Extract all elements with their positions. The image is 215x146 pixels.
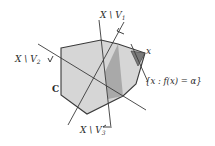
label-x-minus-v3: X \ V3 xyxy=(79,125,106,136)
label-x-minus-v2: X \ V2 xyxy=(14,54,41,65)
convex-set-diagram: X \ V1 X \ V2 X \ V3 C x {x : f(x) = α} xyxy=(0,0,215,146)
label-x-minus-v1: X \ V1 xyxy=(99,10,126,21)
label-level-set: {x : f(x) = α} xyxy=(145,76,202,86)
arrow-v3-icon xyxy=(103,125,110,127)
label-set-c: C xyxy=(52,84,59,94)
arrow-v2-icon xyxy=(48,56,53,62)
label-point-x: x xyxy=(146,46,151,56)
